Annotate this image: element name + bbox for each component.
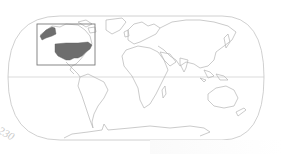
- world-map-svg: [0, 0, 282, 154]
- world-locator-map: 230: [0, 0, 282, 154]
- scan-shading: [150, 140, 282, 154]
